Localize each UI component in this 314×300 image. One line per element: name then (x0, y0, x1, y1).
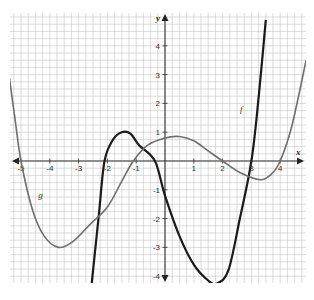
y-axis-label: y (155, 13, 161, 23)
svg-text:3: 3 (156, 71, 161, 80)
svg-text:2: 2 (156, 99, 161, 108)
svg-text:-3: -3 (75, 164, 83, 173)
curve-label-g: g (38, 190, 43, 200)
svg-text:-1: -1 (133, 164, 141, 173)
svg-text:-1: -1 (153, 186, 161, 195)
curve-f (92, 20, 266, 285)
svg-text:-4: -4 (46, 164, 54, 173)
svg-text:1: 1 (156, 128, 161, 137)
svg-text:2: 2 (220, 164, 225, 173)
svg-text:-4: -4 (153, 272, 161, 281)
curve-label-f: f (240, 104, 244, 114)
function-graph: -5-4-3-2-11234-4-3-2-11234 x y f g (0, 0, 314, 300)
svg-text:4: 4 (156, 42, 161, 51)
x-axis-label: x (295, 147, 301, 157)
svg-text:-2: -2 (104, 164, 112, 173)
svg-text:-2: -2 (153, 215, 161, 224)
svg-text:-3: -3 (153, 243, 161, 252)
svg-text:1: 1 (192, 164, 197, 173)
